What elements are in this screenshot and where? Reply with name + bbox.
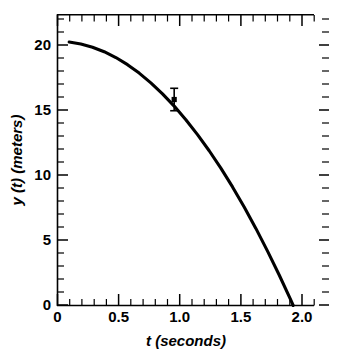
y-axis-ticks [58,19,69,305]
x-tick-label-1-0: 1.0 [169,308,190,325]
x-tick-labels: 0 0.5 1.0 1.5 2.0 [53,308,312,325]
y-tick-label-5: 5 [43,231,51,248]
free-fall-plot: 20 15 10 5 0 0 0.5 1.0 1.5 2.0 t (second… [0,0,338,356]
y-tick-label-15: 15 [34,101,51,118]
y-axis-title: y (t) (meters) [8,115,25,207]
x-tick-label-0: 0 [53,308,61,325]
x-axis-title: t (seconds) [146,332,226,349]
x-axis-ticks [58,294,315,306]
y-tick-labels: 20 15 10 5 0 [34,36,51,313]
y-tick-label-10: 10 [34,166,51,183]
x-tick-label-2-0: 2.0 [292,308,313,325]
right-axis-ticks [319,19,329,305]
x-tick-label-1-5: 1.5 [230,308,251,325]
data-point-marker [172,97,177,102]
y-tick-label-20: 20 [34,36,51,53]
data-curve [69,42,293,305]
y-tick-label-0: 0 [43,296,51,313]
chart-figure: 20 15 10 5 0 0 0.5 1.0 1.5 2.0 t (second… [0,0,338,356]
top-axis-ticks [58,15,315,26]
x-tick-label-0-5: 0.5 [108,308,129,325]
axis-frame [57,14,314,306]
